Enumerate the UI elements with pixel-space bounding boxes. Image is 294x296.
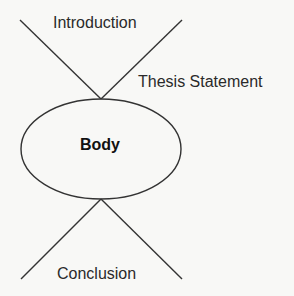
essay-structure-diagram: Introduction Thesis Statement Body Concl…	[0, 0, 294, 296]
thesis-statement-label: Thesis Statement	[138, 73, 263, 91]
conclusion-label: Conclusion	[57, 265, 136, 283]
diagram-shapes	[0, 0, 294, 296]
body-label: Body	[80, 136, 120, 154]
introduction-label: Introduction	[53, 14, 137, 32]
